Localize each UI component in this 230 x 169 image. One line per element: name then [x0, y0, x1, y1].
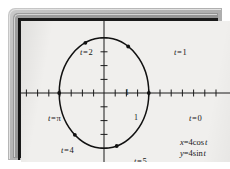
point-t-1	[126, 45, 130, 49]
label-t-equals-pi: t=π	[48, 113, 61, 123]
point-t-2	[84, 41, 88, 45]
point-t-pi	[57, 91, 61, 95]
equation-y: y=4sin t	[180, 148, 207, 159]
picture-frame-left-edge	[18, 18, 20, 160]
parametric-equations: x=4cos t y=4sin t	[180, 137, 207, 158]
y-axis-tick-label-1: 1	[125, 88, 129, 97]
label-t-equals-0: t=0	[189, 113, 202, 123]
equation-x: x=4cos t	[180, 137, 207, 148]
x-axis-tick-label-1: 1	[134, 113, 138, 122]
label-t-equals-2: t=2	[80, 47, 93, 57]
label-t-equals-1: t=1	[174, 47, 187, 57]
plot-board: 1 1 t=2 t=1 t=π t=0 t=4 t=5 x=4cos t y=4…	[21, 21, 230, 162]
figure-screenshot: 1 1 t=2 t=1 t=π t=0 t=4 t=5 x=4cos t y=4…	[0, 0, 230, 169]
label-t-equals-5: t=5	[134, 156, 147, 162]
point-t-0	[147, 91, 151, 95]
point-t-5	[115, 144, 119, 148]
point-t-4	[73, 133, 77, 137]
label-t-equals-4: t=4	[61, 145, 74, 155]
